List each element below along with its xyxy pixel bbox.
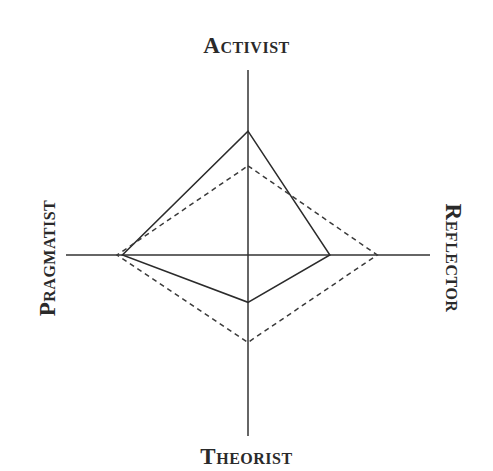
axis-label-theorist: Theorist	[0, 444, 493, 470]
axis-label-pragmatist: Pragmatist	[35, 200, 61, 317]
axis-label-activist: Activist	[0, 33, 493, 59]
dashed-series-polygon	[117, 166, 377, 343]
axis-label-reflector: Reflector	[440, 204, 466, 313]
radar-chart	[0, 0, 493, 471]
solid-series-polygon	[122, 131, 330, 302]
